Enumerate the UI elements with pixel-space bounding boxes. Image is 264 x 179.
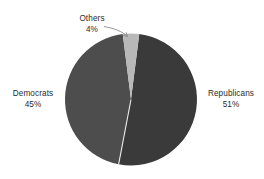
pie-label-democrats: Democrats 45%: [0, 89, 66, 110]
pie-label-democrats-value: 45%: [0, 100, 66, 111]
pie-label-republicans: Republicans 51%: [198, 89, 264, 110]
pie-label-others: Others 4%: [61, 14, 123, 35]
pie-label-republicans-name: Republicans: [198, 89, 264, 100]
pie-slice-democrats[interactable]: [65, 34, 131, 164]
pie-label-democrats-name: Democrats: [0, 89, 66, 100]
pie-chart: Others 4% Democrats 45% Republicans 51%: [0, 0, 264, 179]
pie-label-others-name: Others: [61, 14, 123, 25]
pie-label-others-value: 4%: [61, 25, 123, 36]
pie-label-republicans-value: 51%: [198, 100, 264, 111]
